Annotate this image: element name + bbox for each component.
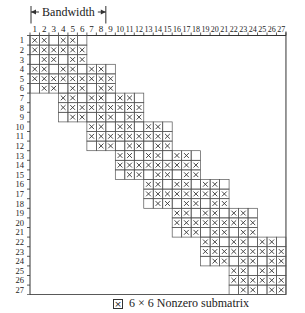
nonzero-mark bbox=[127, 144, 132, 149]
nonzero-mark bbox=[51, 76, 56, 81]
nonzero-mark bbox=[212, 230, 217, 235]
nonzero-mark bbox=[194, 163, 199, 168]
svg-text:19: 19 bbox=[201, 25, 209, 34]
nonzero-mark bbox=[175, 182, 180, 187]
svg-text:17: 17 bbox=[16, 189, 25, 199]
svg-text:12: 12 bbox=[135, 25, 143, 34]
svg-text:11: 11 bbox=[16, 131, 24, 141]
nonzero-mark bbox=[165, 192, 170, 197]
nonzero-mark bbox=[80, 86, 85, 91]
nonzero-mark bbox=[137, 172, 142, 177]
nonzero-mark bbox=[250, 288, 255, 293]
nonzero-mark bbox=[184, 201, 189, 206]
nonzero-mark bbox=[42, 86, 47, 91]
nonzero-mark bbox=[70, 105, 75, 110]
nonzero-mark bbox=[241, 240, 246, 245]
nonzero-mark bbox=[212, 240, 217, 245]
nonzero-mark bbox=[70, 86, 75, 91]
crossed-box-icon: × bbox=[113, 299, 123, 309]
svg-text:10: 10 bbox=[116, 25, 124, 34]
nonzero-mark bbox=[241, 230, 246, 235]
nonzero-mark bbox=[118, 163, 123, 168]
svg-text:12: 12 bbox=[16, 141, 25, 151]
nonzero-mark bbox=[269, 288, 274, 293]
nonzero-mark bbox=[156, 134, 161, 139]
nonzero-mark bbox=[203, 192, 208, 197]
svg-text:18: 18 bbox=[16, 199, 25, 209]
nonzero-mark bbox=[250, 278, 255, 283]
nonzero-mark bbox=[127, 115, 132, 120]
nonzero-mark bbox=[146, 153, 151, 158]
nonzero-mark bbox=[260, 278, 265, 283]
nonzero-mark bbox=[99, 76, 104, 81]
nonzero-mark bbox=[231, 240, 236, 245]
nonzero-mark bbox=[194, 172, 199, 177]
svg-text:18: 18 bbox=[192, 25, 200, 34]
nonzero-mark bbox=[260, 268, 265, 273]
svg-text:24: 24 bbox=[249, 25, 257, 34]
nonzero-mark bbox=[127, 124, 132, 129]
nonzero-mark bbox=[118, 153, 123, 158]
svg-text:27: 27 bbox=[16, 285, 25, 295]
svg-text:21: 21 bbox=[16, 227, 25, 237]
svg-text:16: 16 bbox=[173, 25, 181, 34]
nonzero-mark bbox=[80, 76, 85, 81]
nonzero-mark bbox=[203, 220, 208, 225]
column-numbers: 1234567891011121314151617181920212223242… bbox=[32, 24, 285, 34]
nonzero-mark bbox=[61, 48, 66, 53]
nonzero-mark bbox=[80, 57, 85, 62]
nonzero-mark bbox=[146, 182, 151, 187]
nonzero-mark bbox=[108, 76, 113, 81]
nonzero-mark bbox=[212, 211, 217, 216]
nonzero-mark bbox=[231, 220, 236, 225]
nonzero-mark bbox=[269, 249, 274, 254]
nonzero-mark bbox=[241, 220, 246, 225]
nonzero-mark bbox=[165, 134, 170, 139]
nonzero-mark bbox=[212, 201, 217, 206]
nonzero-mark bbox=[89, 105, 94, 110]
nonzero-mark bbox=[203, 249, 208, 254]
nonzero-mark bbox=[89, 96, 94, 101]
banded-matrix-diagram: Bandwidth 123456789101112131415161718192… bbox=[0, 0, 305, 295]
nonzero-mark bbox=[70, 115, 75, 120]
nonzero-mark bbox=[89, 67, 94, 72]
svg-text:11: 11 bbox=[126, 25, 134, 34]
nonzero-mark bbox=[99, 96, 104, 101]
nonzero-mark bbox=[184, 172, 189, 177]
svg-text:9: 9 bbox=[108, 24, 113, 34]
svg-text:19: 19 bbox=[16, 208, 25, 218]
svg-text:3: 3 bbox=[51, 24, 56, 34]
nonzero-mark bbox=[165, 144, 170, 149]
nonzero-mark bbox=[269, 278, 274, 283]
nonzero-mark bbox=[42, 67, 47, 72]
svg-text:14: 14 bbox=[16, 160, 25, 170]
svg-text:2: 2 bbox=[42, 24, 47, 34]
svg-text:2: 2 bbox=[20, 45, 24, 55]
nonzero-mark bbox=[250, 220, 255, 225]
nonzero-mark bbox=[184, 192, 189, 197]
nonzero-mark bbox=[156, 172, 161, 177]
nonzero-mark bbox=[99, 86, 104, 91]
nonzero-mark bbox=[42, 76, 47, 81]
nonzero-mark bbox=[32, 48, 37, 53]
svg-text:13: 13 bbox=[16, 151, 25, 161]
nonzero-mark bbox=[70, 76, 75, 81]
svg-text:26: 26 bbox=[268, 25, 276, 34]
nonzero-mark bbox=[250, 230, 255, 235]
nonzero-mark bbox=[146, 124, 151, 129]
svg-text:27: 27 bbox=[277, 25, 285, 34]
nonzero-mark bbox=[212, 249, 217, 254]
nonzero-mark bbox=[194, 192, 199, 197]
nonzero-mark bbox=[194, 220, 199, 225]
svg-text:8: 8 bbox=[99, 24, 104, 34]
svg-text:4: 4 bbox=[20, 64, 25, 74]
svg-text:6: 6 bbox=[20, 83, 24, 93]
nonzero-mark bbox=[156, 163, 161, 168]
svg-text:25: 25 bbox=[258, 25, 266, 34]
nonzero-mark bbox=[108, 144, 113, 149]
nonzero-mark bbox=[203, 182, 208, 187]
nonzero-mark bbox=[80, 48, 85, 53]
nonzero-mark bbox=[51, 57, 56, 62]
nonzero-mark bbox=[137, 105, 142, 110]
svg-text:21: 21 bbox=[220, 25, 228, 34]
